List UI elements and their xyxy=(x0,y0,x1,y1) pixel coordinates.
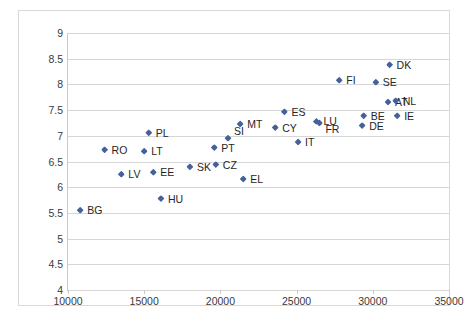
data-point-label-de: DE xyxy=(369,120,384,131)
gridline-y xyxy=(68,239,449,240)
data-point-label-nl: NL xyxy=(403,96,416,107)
gridline-y xyxy=(68,187,449,188)
data-point-label-ee: EE xyxy=(160,167,174,178)
data-point-fi[interactable] xyxy=(336,77,343,84)
x-axis-tick-label: 15000 xyxy=(130,296,159,307)
data-point-hu[interactable] xyxy=(157,195,164,202)
data-point-label-lv: LV xyxy=(128,169,140,180)
data-point-el[interactable] xyxy=(240,175,247,182)
x-axis-tick-label: 10000 xyxy=(53,296,82,307)
data-point-label-fr: FR xyxy=(325,124,339,135)
data-point-ie[interactable] xyxy=(394,112,401,119)
data-point-cy[interactable] xyxy=(272,124,279,131)
x-axis-tick-mark xyxy=(449,290,450,294)
gridline-y xyxy=(68,33,449,34)
data-point-label-cy: CY xyxy=(282,122,297,133)
data-point-be[interactable] xyxy=(360,112,367,119)
y-axis-tick-label: 6 xyxy=(57,182,63,193)
data-point-de[interactable] xyxy=(359,122,366,129)
data-point-sk[interactable] xyxy=(186,163,193,170)
x-axis-tick-mark xyxy=(68,290,69,294)
data-point-lt[interactable] xyxy=(141,148,148,155)
data-point-label-es: ES xyxy=(291,106,305,117)
x-axis-tick-mark xyxy=(373,290,374,294)
data-point-label-sk: SK xyxy=(197,161,211,172)
chart-frame: 44.555.566.577.588.591000015000200002500… xyxy=(18,10,450,306)
data-point-label-hu: HU xyxy=(168,193,183,204)
data-point-ee[interactable] xyxy=(150,169,157,176)
y-axis-tick-label: 9 xyxy=(57,28,63,39)
data-point-pt[interactable] xyxy=(211,144,218,151)
x-axis-tick-label: 25000 xyxy=(282,296,311,307)
gridline-y xyxy=(68,290,449,291)
y-axis-tick-label: 8 xyxy=(57,79,63,90)
gridline-y xyxy=(68,59,449,60)
x-axis-tick-mark xyxy=(297,290,298,294)
data-point-label-se: SE xyxy=(383,77,397,88)
data-point-label-cz: CZ xyxy=(223,159,237,170)
y-axis-tick-label: 5 xyxy=(57,233,63,244)
plot-area: 44.555.566.577.588.591000015000200002500… xyxy=(67,33,449,291)
y-axis-tick-label: 7 xyxy=(57,131,63,142)
data-point-label-pt: PT xyxy=(221,142,234,153)
data-point-lv[interactable] xyxy=(118,171,125,178)
x-axis-tick-label: 20000 xyxy=(206,296,235,307)
gridline-y xyxy=(68,213,449,214)
data-point-label-it: IT xyxy=(305,137,314,148)
gridline-y xyxy=(68,264,449,265)
y-axis-tick-label: 7.5 xyxy=(48,105,63,116)
y-axis-tick-label: 5.5 xyxy=(48,208,63,219)
data-point-it[interactable] xyxy=(295,138,302,145)
data-point-label-fi: FI xyxy=(346,75,355,86)
data-point-label-ie: IE xyxy=(404,111,414,122)
x-axis-tick-label: 35000 xyxy=(434,296,463,307)
data-point-dk[interactable] xyxy=(386,61,393,68)
data-point-ro[interactable] xyxy=(101,146,108,153)
y-axis-tick-label: 4.5 xyxy=(48,259,63,270)
data-point-label-ro: RO xyxy=(112,144,128,155)
data-point-label-lt: LT xyxy=(151,146,162,157)
data-point-label-si: SI xyxy=(234,126,244,137)
data-point-label-be: BE xyxy=(371,111,385,122)
x-axis-tick-label: 30000 xyxy=(358,296,387,307)
data-point-label-dk: DK xyxy=(397,60,412,71)
data-point-label-el: EL xyxy=(250,174,263,185)
x-axis-tick-mark xyxy=(144,290,145,294)
gridline-y xyxy=(68,162,449,163)
data-point-label-bg: BG xyxy=(87,205,102,216)
data-point-label-mt: MT xyxy=(247,119,262,130)
gridline-y xyxy=(68,136,449,137)
gridline-y xyxy=(68,110,449,111)
y-axis-tick-label: 6.5 xyxy=(48,156,63,167)
scatter-chart: 44.555.566.577.588.591000015000200002500… xyxy=(0,0,470,323)
data-point-label-pl: PL xyxy=(156,127,169,138)
y-axis-tick-label: 4 xyxy=(57,285,63,296)
y-axis-tick-label: 8.5 xyxy=(48,53,63,64)
data-point-at[interactable] xyxy=(385,98,392,105)
x-axis-tick-mark xyxy=(220,290,221,294)
